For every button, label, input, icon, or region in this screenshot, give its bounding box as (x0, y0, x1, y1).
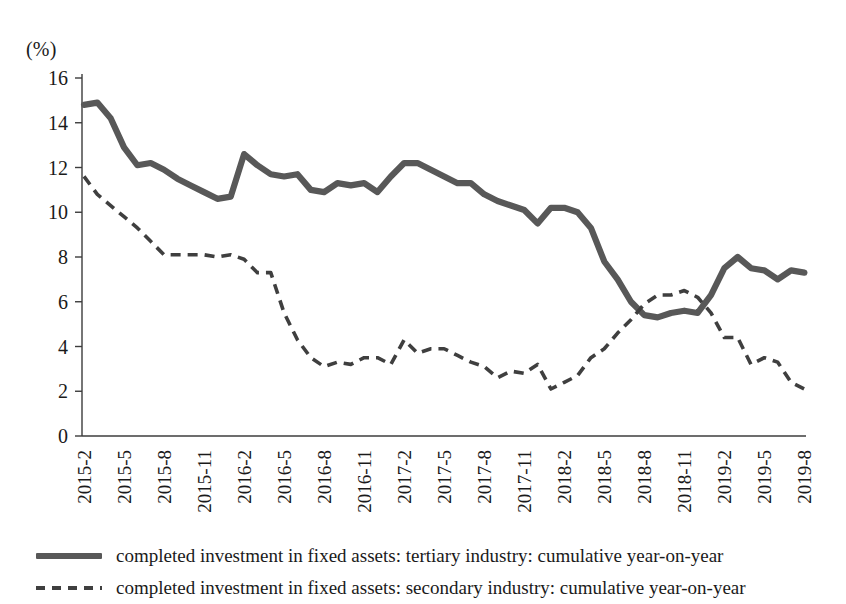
legend-label-secondary-industry: completed investment in fixed assets: se… (116, 578, 746, 598)
line-chart-plot: 0246810121416 2015-22015-52015-82015-112… (0, 0, 846, 604)
legend-swatch-dashed-icon (36, 579, 102, 597)
chart-figure: (%) 0246810121416 2015-22015-52015-82015… (0, 0, 846, 604)
series-line-tertiary-industry (84, 103, 804, 318)
svg-text:2016-2: 2016-2 (234, 450, 255, 504)
svg-text:2015-5: 2015-5 (114, 450, 135, 504)
legend-item-tertiary-industry: completed investment in fixed assets: te… (36, 546, 723, 566)
svg-text:4: 4 (58, 336, 68, 358)
svg-text:0: 0 (58, 425, 68, 447)
svg-text:2018-5: 2018-5 (594, 450, 615, 504)
svg-text:2019-5: 2019-5 (754, 450, 775, 504)
svg-text:2016-11: 2016-11 (354, 450, 375, 513)
legend-item-secondary-industry: completed investment in fixed assets: se… (36, 578, 746, 598)
svg-text:2015-8: 2015-8 (154, 450, 175, 504)
svg-text:10: 10 (48, 201, 68, 223)
svg-text:2019-8: 2019-8 (794, 450, 815, 504)
svg-text:2018-11: 2018-11 (674, 450, 695, 513)
svg-text:16: 16 (48, 67, 68, 89)
svg-text:2015-2: 2015-2 (74, 450, 95, 504)
svg-text:2016-5: 2016-5 (274, 450, 295, 504)
svg-text:2017-2: 2017-2 (394, 450, 415, 504)
series-line-secondary-industry (84, 176, 804, 389)
svg-text:8: 8 (58, 246, 68, 268)
svg-text:2: 2 (58, 380, 68, 402)
svg-text:14: 14 (48, 112, 68, 134)
svg-text:2017-8: 2017-8 (474, 450, 495, 504)
x-axis-ticks (84, 436, 804, 442)
y-axis-ticks: 0246810121416 (48, 67, 82, 447)
legend-label-tertiary-industry: completed investment in fixed assets: te… (116, 546, 723, 566)
svg-text:2017-5: 2017-5 (434, 450, 455, 504)
svg-text:6: 6 (58, 291, 68, 313)
legend-swatch-solid-icon (36, 547, 102, 565)
svg-text:2015-11: 2015-11 (194, 450, 215, 513)
svg-text:2018-8: 2018-8 (634, 450, 655, 504)
svg-text:2019-2: 2019-2 (714, 450, 735, 504)
svg-text:2017-11: 2017-11 (514, 450, 535, 513)
svg-text:2016-8: 2016-8 (314, 450, 335, 504)
x-axis-tick-labels: 2015-22015-52015-82015-112016-22016-5201… (74, 450, 815, 513)
svg-text:2018-2: 2018-2 (554, 450, 575, 504)
svg-text:12: 12 (48, 157, 68, 179)
